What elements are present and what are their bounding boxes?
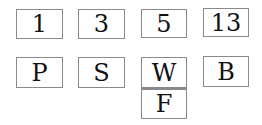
letter-box-b: B bbox=[203, 56, 249, 87]
number-box-3: 3 bbox=[78, 9, 125, 39]
letter-box-s: S bbox=[78, 57, 125, 88]
letter-label: S bbox=[93, 61, 109, 85]
letter-box-w: W bbox=[141, 57, 187, 88]
letter-label: W bbox=[152, 61, 177, 85]
letter-box-p: P bbox=[16, 57, 63, 88]
letter-label: B bbox=[217, 60, 235, 84]
number-label: 13 bbox=[211, 11, 242, 35]
number-box-13: 13 bbox=[203, 8, 249, 37]
number-label: 5 bbox=[156, 12, 171, 36]
number-box-5: 5 bbox=[141, 9, 187, 38]
number-label: 3 bbox=[94, 12, 109, 36]
letter-label: P bbox=[31, 61, 47, 85]
number-box-1: 1 bbox=[16, 9, 63, 39]
number-label: 1 bbox=[32, 12, 47, 36]
letter-label: F bbox=[156, 92, 173, 116]
letter-box-f: F bbox=[141, 88, 187, 119]
